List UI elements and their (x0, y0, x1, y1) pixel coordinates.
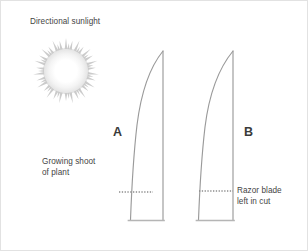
shoot-b-outline (199, 51, 234, 220)
directional-sunlight-label: Directional sunlight (30, 16, 100, 27)
panel-letter-a: A (113, 125, 122, 139)
panel-letter-b: B (244, 125, 253, 139)
growing-shoot-label: Growing shoot of plant (42, 156, 95, 178)
razor-blade-label: Razor blade left in cut (237, 185, 282, 207)
shoot-a (129, 51, 165, 221)
sun-rays-icon (33, 38, 99, 104)
shoot-b (197, 51, 235, 221)
shoot-a-outline (131, 51, 164, 220)
diagram-vector-layer (1, 1, 308, 251)
phototropism-diagram: Directional sunlight Growing shoot of pl… (0, 0, 308, 251)
